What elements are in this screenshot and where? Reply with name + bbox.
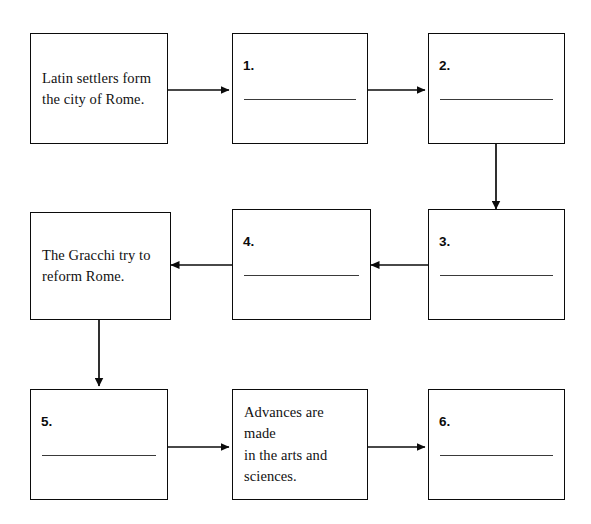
node-blank-2-number: 2. — [439, 57, 450, 72]
node-blank-1-answer-line[interactable] — [244, 99, 356, 100]
node-blank-6-number: 6. — [439, 413, 450, 428]
node-blank-6[interactable]: 6. — [428, 389, 565, 500]
node-blank-4-answer-line[interactable] — [244, 275, 359, 276]
node-blank-3-answer-line[interactable] — [440, 275, 553, 276]
node-blank-3[interactable]: 3. — [428, 209, 565, 320]
node-blank-4[interactable]: 4. — [232, 209, 371, 320]
worksheet-page: Latin settlers form the city of Rome. 1.… — [0, 0, 591, 524]
node-blank-2[interactable]: 2. — [428, 33, 565, 144]
node-blank-5-number: 5. — [41, 413, 52, 428]
node-rome-founded: Latin settlers form the city of Rome. — [30, 33, 168, 144]
node-blank-3-number: 3. — [439, 233, 450, 248]
node-blank-1[interactable]: 1. — [232, 33, 368, 144]
node-blank-4-number: 4. — [243, 233, 254, 248]
node-blank-5-answer-line[interactable] — [42, 455, 156, 456]
node-rome-founded-text: Latin settlers form the city of Rome. — [31, 68, 162, 109]
node-gracchi: The Gracchi try to reform Rome. — [30, 212, 171, 320]
node-advances: Advances are made in the arts and scienc… — [232, 389, 368, 500]
node-blank-5[interactable]: 5. — [30, 389, 168, 500]
node-blank-2-answer-line[interactable] — [440, 99, 553, 100]
node-blank-6-answer-line[interactable] — [440, 455, 553, 456]
node-gracchi-text: The Gracchi try to reform Rome. — [31, 245, 162, 286]
node-advances-text: Advances are made in the arts and scienc… — [233, 402, 367, 486]
node-blank-1-number: 1. — [243, 57, 254, 72]
